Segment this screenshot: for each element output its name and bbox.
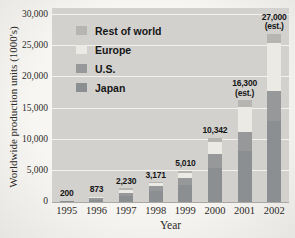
legend: Rest of worldEuropeU.S.Japan bbox=[76, 21, 162, 97]
bar-segment-u-s--2000 bbox=[208, 154, 222, 168]
bar-segment-japan-1998 bbox=[149, 191, 163, 202]
legend-swatch-icon bbox=[76, 26, 87, 35]
y-tick-15000: 15,000 bbox=[0, 103, 48, 113]
bar-segment-u-s--2002 bbox=[267, 91, 281, 121]
bar-1998 bbox=[149, 182, 163, 202]
bar-segment-japan-1999 bbox=[178, 185, 192, 202]
bar-segment-europe-2000 bbox=[208, 142, 222, 154]
bar-1996 bbox=[89, 197, 103, 202]
bar-1997 bbox=[119, 188, 133, 202]
y-tick-30000: 30,000 bbox=[0, 9, 48, 19]
bar-segment-japan-2002 bbox=[267, 121, 281, 202]
legend-swatch-icon bbox=[76, 45, 87, 54]
y-tick-5000: 5,000 bbox=[0, 165, 48, 175]
legend-row-japan: Japan bbox=[76, 78, 162, 97]
bar-value-label-2002: 27,000(est.) bbox=[242, 13, 295, 32]
bar-segment-japan-1996 bbox=[89, 200, 103, 202]
legend-row-europe: Europe bbox=[76, 40, 162, 59]
y-tick-10000: 10,000 bbox=[0, 134, 48, 144]
x-tick-2002: 2002 bbox=[252, 205, 295, 216]
bar-segment-japan-1995 bbox=[60, 201, 74, 202]
bar-segment-japan-2000 bbox=[208, 168, 222, 202]
chart-figure: Worldwide production units (1000's) 2008… bbox=[0, 0, 295, 238]
legend-label: Europe bbox=[95, 44, 131, 56]
bar-est-label-2002: (est.) bbox=[242, 22, 295, 32]
legend-swatch-icon bbox=[76, 83, 87, 92]
bar-1999 bbox=[178, 171, 192, 202]
bar-2000 bbox=[208, 138, 222, 202]
bar-segment-u-s--1999 bbox=[178, 178, 192, 185]
bar-segment-japan-2001 bbox=[238, 151, 252, 202]
legend-label: Rest of world bbox=[95, 25, 162, 37]
y-tick-0: 0 bbox=[0, 196, 48, 206]
legend-row-u-s-: U.S. bbox=[76, 59, 162, 78]
bar-segment-rest-of-world-2002 bbox=[267, 34, 281, 43]
legend-label: U.S. bbox=[95, 63, 115, 75]
legend-swatch-icon bbox=[76, 64, 87, 73]
bar-1995 bbox=[60, 201, 74, 202]
legend-label: Japan bbox=[95, 82, 125, 94]
bar-segment-europe-2001 bbox=[238, 107, 252, 132]
bar-2002 bbox=[267, 34, 281, 202]
bar-segment-japan-1997 bbox=[119, 196, 133, 202]
legend-row-rest-of-world: Rest of world bbox=[76, 21, 162, 40]
bar-segment-europe-2002 bbox=[267, 43, 281, 91]
bar-2001 bbox=[238, 100, 252, 202]
x-axis-title: Year bbox=[52, 219, 289, 231]
gridline-15000 bbox=[52, 108, 289, 109]
y-tick-25000: 25,000 bbox=[0, 40, 48, 50]
bar-segment-u-s--2001 bbox=[238, 132, 252, 151]
gridline-10000 bbox=[52, 139, 289, 140]
y-tick-20000: 20,000 bbox=[0, 71, 48, 81]
